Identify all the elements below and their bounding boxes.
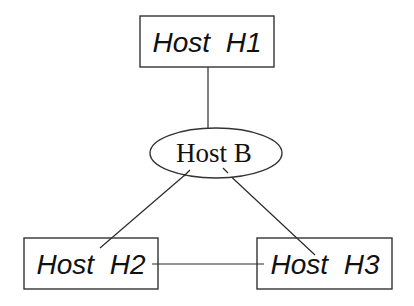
edge-b-to-h2 <box>100 174 186 248</box>
node-host-h3: Host H3 <box>257 238 392 289</box>
edge-b-to-h3 <box>224 170 315 255</box>
node-host-b-label: Host B <box>176 138 252 168</box>
node-host-h2: Host H2 <box>24 238 158 289</box>
node-host-h2-label: Host H2 <box>37 249 146 280</box>
network-diagram: Host H1 Host B Host H2 Host H3 <box>0 0 414 306</box>
node-host-h1: Host H1 <box>140 16 274 67</box>
node-host-b: Host B <box>150 128 282 178</box>
node-host-h3-label: Host H3 <box>271 249 380 280</box>
node-host-h1-label: Host H1 <box>153 27 262 58</box>
